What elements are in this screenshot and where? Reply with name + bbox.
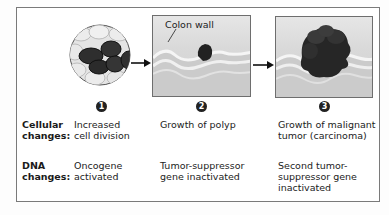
stage-number-2: 2 [196,101,207,112]
stage-3-cellular-change: Growth of malignant tumor (carcinoma) [278,119,376,141]
arrow-right-icon [253,54,274,62]
stage-1-dna-change: Oncogene activated [74,160,122,182]
stage-number-3: 3 [319,101,330,112]
stage-3-dna-change: Second tumor- suppressor gene inactivate… [278,160,357,193]
cell-cluster-icon [69,24,131,86]
stage-number-1: 1 [96,101,107,112]
carcinoma-panel [275,16,373,98]
polyp-panel: Colon wall [152,15,251,97]
cellular-changes-label: Cellular changes: [22,119,70,141]
stage-2-cellular-change: Growth of polyp [160,119,236,130]
stage-2-dna-change: Tumor-suppressor gene inactivated [160,160,244,182]
stage-1-cellular-change: Increased cell division [74,119,130,141]
arrow-right-icon [131,52,151,60]
dna-changes-label: DNA changes: [22,160,70,182]
